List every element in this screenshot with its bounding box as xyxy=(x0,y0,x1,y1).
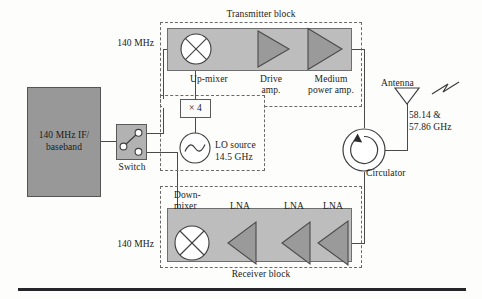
rf-transceiver-block-diagram: Transmitter block Receiver block 140 MHz… xyxy=(0,0,482,299)
lna-label-1: LNA xyxy=(218,201,262,212)
transmitter-block-title: Transmitter block xyxy=(201,9,321,20)
switch-label: Switch xyxy=(105,162,159,173)
drive-amp-label-line1: Drive xyxy=(245,74,297,85)
frequency-multiplier-label: × 4 xyxy=(180,103,211,114)
drive-amp-triangle xyxy=(258,31,289,67)
medium-power-amp-label-line2: power amp. xyxy=(298,85,364,96)
circulator-label: Circulator xyxy=(366,168,406,179)
up-mixer-symbol xyxy=(181,34,211,64)
up-mixer-label: Up-mixer xyxy=(190,74,228,85)
lna-triangle-2 xyxy=(282,222,310,264)
bottom-divider-rule xyxy=(18,288,466,291)
lna-label-2: LNA xyxy=(272,201,316,212)
signal-label-if-bottom: 140 MHz xyxy=(91,239,154,250)
down-mixer-symbol xyxy=(175,226,209,260)
if-baseband-label-line2: baseband xyxy=(27,142,101,153)
receiver-block-title: Receiver block xyxy=(201,269,321,280)
lo-source-label-line1: LO source xyxy=(215,140,256,151)
lna-triangle-3 xyxy=(318,221,348,265)
antenna-frequency-line1: 58.14 & xyxy=(409,110,441,121)
antenna-label: Antenna xyxy=(381,78,414,89)
down-mixer-label-line2: mixer xyxy=(174,201,197,212)
antenna-frequency-line2: 57.86 GHz xyxy=(409,122,452,133)
medium-power-amp-triangle xyxy=(308,29,342,70)
down-mixer-label-line1: Down- xyxy=(174,190,201,201)
lna-triangle-1 xyxy=(228,222,256,264)
drive-amp-label-line2: amp. xyxy=(245,85,297,96)
lo-source-label-line2: 14.5 GHz xyxy=(215,152,253,163)
lo-source-symbol xyxy=(180,133,210,163)
antenna-symbol xyxy=(395,88,419,104)
antenna-radiation-icon xyxy=(432,82,459,94)
medium-power-amp-label-line1: Medium xyxy=(300,74,362,85)
if-baseband-label-line1: 140 MHz IF/ xyxy=(27,130,101,141)
signal-label-if-top: 140 MHz xyxy=(91,38,154,49)
lna-label-3: LNA xyxy=(311,201,355,212)
switch-internals xyxy=(120,129,142,155)
circulator-symbol xyxy=(343,129,385,171)
